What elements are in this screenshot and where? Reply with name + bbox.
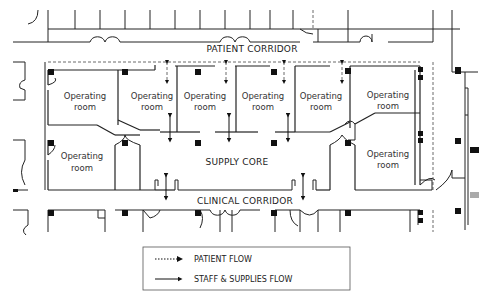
or-walls [48, 65, 432, 190]
room-4-label-line1: Operating [242, 91, 285, 101]
room-3-label-line2: room [194, 102, 216, 112]
patient-flow-arrows [167, 62, 342, 82]
room-6-label-line1: Operating [367, 90, 410, 100]
left-wall [13, 62, 45, 235]
or-block-dashed-boundary [48, 62, 433, 190]
room-4-label-line2: room [252, 102, 274, 112]
room-6-label-line2: room [377, 101, 399, 111]
patient-corridor-label: PATIENT CORRIDOR [206, 44, 297, 54]
floor-plan: PATIENT CORRIDOR [0, 0, 494, 304]
legend-patient-flow: PATIENT FLOW [194, 255, 252, 264]
room-8-label-line1: Operating [367, 149, 410, 159]
grey-column [470, 192, 479, 198]
room-2-label-line2: room [141, 102, 163, 112]
right-wall [420, 60, 478, 230]
room-7-label-line2: room [71, 163, 93, 173]
room-3-label-line1: Operating [184, 91, 227, 101]
supply-core-label: SUPPLY CORE [206, 157, 269, 167]
room-1-label-line1: Operating [64, 91, 107, 101]
legend: PATIENT FLOW STAFF & SUPPLIES FLOW [143, 247, 350, 290]
clinical-corridor-label: CLINICAL CORRIDOR [197, 196, 293, 206]
room-1-label-line2: room [74, 102, 96, 112]
room-7-label-line1: Operating [61, 151, 104, 161]
room-5-label-line1: Operating [300, 91, 343, 101]
room-5-label-line2: room [310, 102, 332, 112]
bottom-rooms [48, 210, 433, 232]
room-2-label-line1: Operating [131, 91, 174, 101]
legend-staff-supplies-flow: STAFF & SUPPLIES FLOW [194, 275, 292, 284]
room-8-label-line2: room [377, 160, 399, 170]
